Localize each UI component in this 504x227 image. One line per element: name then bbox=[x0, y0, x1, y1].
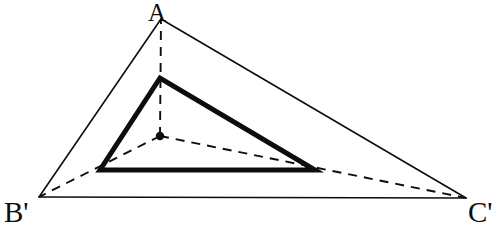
inner-triangle bbox=[100, 78, 315, 170]
vertex-label-b-prime: B' bbox=[4, 198, 29, 227]
geometry-figure: A B' C' bbox=[0, 0, 504, 227]
vertex-label-a: A bbox=[148, 0, 166, 25]
vertex-label-c-prime: C' bbox=[468, 198, 493, 227]
center-dot-icon bbox=[156, 132, 164, 140]
inner-triangle-outline bbox=[100, 78, 315, 170]
geometry-canvas bbox=[0, 0, 504, 227]
outer-edge-bprime-to-cprime bbox=[39, 197, 466, 198]
